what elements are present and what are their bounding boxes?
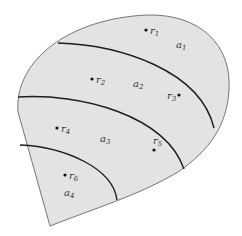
region-diagram: r1 r2 r3 r4 r5 r6 a1 a2 a3 a4 — [0, 0, 242, 236]
point-r1 — [144, 28, 147, 31]
point-r4 — [55, 126, 58, 129]
point-r3 — [177, 93, 180, 96]
outer-boundary — [18, 15, 229, 226]
point-r5 — [152, 148, 155, 151]
point-r2 — [90, 77, 93, 80]
point-r6 — [63, 173, 66, 176]
